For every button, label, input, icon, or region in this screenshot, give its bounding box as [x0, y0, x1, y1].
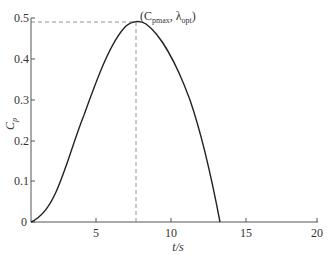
- chart: 0 0.1 0.2 0.3 0.4 0.5 5 10 15 20 (Cpmax,…: [0, 0, 330, 255]
- x-tick-label: 15: [240, 226, 252, 240]
- y-tick-label: 0.2: [14, 134, 29, 148]
- x-tick-label: 10: [165, 226, 177, 240]
- y-tick-label: 0.1: [14, 174, 29, 188]
- y-tick-label: 0: [21, 215, 27, 229]
- svg-text:Cp: Cp: [3, 118, 19, 130]
- y-axis-label: Cp: [3, 118, 19, 130]
- y-tick-label: 0.5: [14, 11, 29, 25]
- peak-annotation: (Cpmax, λopt): [140, 9, 196, 25]
- x-ticks: 5 10 15 20: [93, 218, 323, 240]
- x-tick-label: 20: [311, 226, 323, 240]
- x-tick-label: 5: [93, 226, 99, 240]
- y-tick-label: 0.3: [14, 93, 29, 107]
- y-tick-label: 0.4: [14, 52, 29, 66]
- x-axis-label: t/s: [172, 240, 184, 254]
- cp-curve: [31, 22, 220, 222]
